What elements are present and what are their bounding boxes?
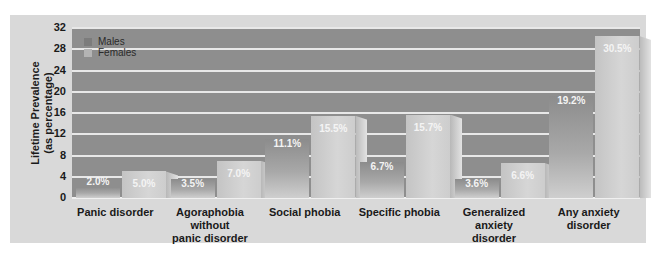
bar-value-males: 3.6% (452, 178, 502, 189)
x-tick-label: Specific phobia (349, 206, 449, 219)
x-tick-label: Any anxietydisorder (539, 206, 639, 232)
gridline (72, 70, 640, 72)
bar-females: 6.6% (501, 163, 545, 198)
y-tick-label: 0 (44, 191, 66, 203)
y-tick-label: 8 (44, 149, 66, 161)
bar-males: 6.7% (360, 162, 404, 198)
x-tick-label-line: disorder (539, 219, 639, 232)
bar-face (217, 161, 261, 198)
bar-side-3d (639, 36, 651, 198)
bar-value-females: 6.6% (498, 170, 548, 181)
bar-males: 2.0% (76, 187, 120, 198)
bar-value-males: 6.7% (357, 161, 407, 172)
bar-value-males: 2.0% (73, 176, 123, 187)
y-tick-label: 32 (44, 21, 66, 33)
x-tick-label-line: anxiety (444, 219, 544, 232)
bar-value-females: 7.0% (214, 168, 264, 179)
bar-males: 19.2% (549, 96, 593, 198)
x-tick-label: Agoraphobiawithoutpanic disorder (160, 206, 260, 245)
bar-females: 30.5% (595, 36, 639, 198)
x-tick-label-line: Specific phobia (349, 206, 449, 219)
gridline (72, 48, 640, 50)
bar-females: 5.0% (122, 171, 166, 198)
bar-value-males: 3.5% (168, 178, 218, 189)
legend-item-males: Males (84, 36, 136, 47)
x-tick-label-line: Any anxiety (539, 206, 639, 219)
x-tick-label-line: disorder (444, 232, 544, 245)
y-axis-label-line-1: Lifetime Prevalence (29, 33, 42, 193)
y-tick-label: 16 (44, 106, 66, 118)
y-tick-label: 4 (44, 170, 66, 182)
bar-females: 15.5% (311, 116, 355, 198)
legend: Males Females (84, 36, 136, 58)
legend-swatch-males (84, 38, 92, 46)
bar-males: 11.1% (265, 139, 309, 198)
x-tick-label: Social phobia (255, 206, 355, 219)
legend-label-males: Males (98, 36, 125, 47)
x-tick-label-line: without (160, 219, 260, 232)
x-tick-label-line: Social phobia (255, 206, 355, 219)
x-tick-label-line: Generalized (444, 206, 544, 219)
legend-item-females: Females (84, 47, 136, 58)
bar-face (595, 36, 639, 198)
y-tick-label: 20 (44, 85, 66, 97)
bar-face (76, 187, 120, 198)
x-tick-label-line: panic disorder (160, 232, 260, 245)
y-tick-label: 28 (44, 42, 66, 54)
bar-females: 15.7% (406, 115, 450, 198)
bar-value-males: 19.2% (546, 95, 596, 106)
x-tick-label-line: Agoraphobia (160, 206, 260, 219)
x-tick-label: Generalizedanxietydisorder (444, 206, 544, 245)
x-tick-label-line: Panic disorder (65, 206, 165, 219)
bar-males: 3.6% (455, 179, 499, 198)
bar-value-males: 11.1% (262, 138, 312, 149)
bar-value-females: 30.5% (592, 43, 642, 54)
y-tick-label: 12 (44, 127, 66, 139)
y-tick-label: 24 (44, 64, 66, 76)
bar-value-females: 15.5% (308, 123, 358, 134)
x-tick-label: Panic disorder (65, 206, 165, 219)
bar-value-females: 15.7% (403, 122, 453, 133)
plot-area: 2.0%5.0%3.5%7.0%11.1%15.5%6.7%15.7%3.6%6… (72, 28, 640, 198)
bar-face (549, 96, 593, 198)
gridline (72, 91, 640, 93)
bar-value-females: 5.0% (119, 178, 169, 189)
gridline (72, 27, 640, 29)
legend-label-females: Females (98, 47, 136, 58)
bar-females: 7.0% (217, 161, 261, 198)
bar-males: 3.5% (171, 179, 215, 198)
legend-swatch-females (84, 49, 92, 57)
